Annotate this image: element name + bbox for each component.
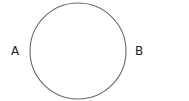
point-label-a: A [11,45,19,57]
point-label-b: B [135,45,143,57]
circle-shape [30,3,126,99]
circle-diagram [0,0,189,101]
